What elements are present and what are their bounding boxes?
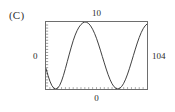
right-axis-label: 104 (152, 51, 166, 61)
plot-frame (45, 21, 148, 90)
plot-canvas (46, 22, 147, 89)
left-axis-label: 0 (33, 51, 38, 61)
figure-panel: (C) 10 0 104 0 (0, 0, 174, 112)
bottom-axis-ticks (50, 87, 143, 89)
left-axis-ticks (46, 25, 48, 86)
oscillation-curve (46, 22, 147, 89)
top-axis-label: 10 (10, 8, 175, 18)
bottom-axis-label: 0 (10, 93, 175, 103)
